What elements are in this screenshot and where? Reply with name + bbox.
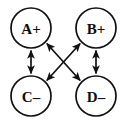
node-a[interactable]: A+ [11,8,51,48]
diagram-canvas: A+ B+ C– D– [0,0,127,123]
node-c-label: C– [22,89,41,105]
node-d-label: D– [87,89,106,105]
node-b[interactable]: B+ [76,8,116,48]
node-a-label: A+ [21,21,40,37]
node-d[interactable]: D– [76,76,116,116]
node-c[interactable]: C– [11,76,51,116]
node-b-label: B+ [87,21,106,37]
edge-group [31,44,96,81]
graph-diagram: A+ B+ C– D– [0,0,127,123]
